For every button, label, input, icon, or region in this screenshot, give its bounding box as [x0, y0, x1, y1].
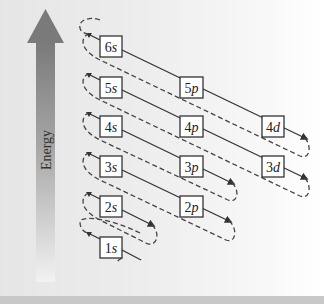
svg-text:2p: 2p — [185, 200, 199, 215]
aufbau-diagram: Energy — [0, 0, 324, 304]
orbital-3p: 3p — [180, 156, 203, 177]
bottom-border — [0, 296, 324, 304]
orbital-2s: 2s — [100, 196, 122, 217]
diagram-canvas: Energy — [0, 0, 324, 304]
orbital-2p: 2p — [180, 196, 203, 217]
svg-text:5s: 5s — [105, 81, 118, 96]
svg-text:1s: 1s — [105, 241, 118, 256]
svg-text:3s: 3s — [105, 160, 118, 175]
orbital-4d: 4d — [262, 116, 284, 137]
svg-text:4s: 4s — [105, 120, 118, 135]
orbital-4p: 4p — [180, 116, 203, 137]
svg-text:3p: 3p — [185, 160, 199, 175]
orbital-5s: 5s — [100, 77, 122, 98]
orbital-3s: 3s — [100, 156, 122, 177]
orbital-boxes: 1s 2s 2p 3s 3p 3d — [100, 36, 284, 258]
svg-text:4p: 4p — [185, 120, 199, 135]
orbital-3d: 3d — [262, 156, 284, 177]
svg-text:3d: 3d — [266, 160, 281, 175]
orbital-5p: 5p — [180, 77, 203, 98]
orbital-4s: 4s — [100, 116, 122, 137]
orbital-1s: 1s — [100, 237, 122, 258]
svg-text:4d: 4d — [266, 120, 281, 135]
orbital-6s: 6s — [100, 36, 122, 57]
svg-text:6s: 6s — [105, 40, 118, 55]
svg-text:2s: 2s — [105, 200, 118, 215]
energy-axis-label: Energy — [39, 130, 54, 170]
svg-text:5p: 5p — [185, 81, 199, 96]
